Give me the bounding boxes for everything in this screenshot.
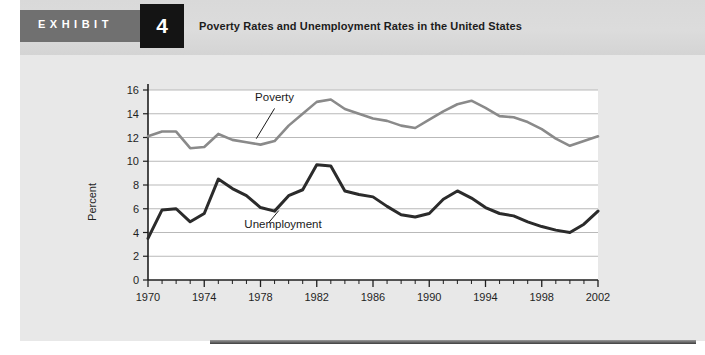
chart-figure: 0246810121416 19701974197819821986199019… [84,82,614,317]
series-label-poverty: Poverty [255,91,294,103]
x-tick-label: 1990 [417,291,441,303]
x-axis-ticks: 197019741978198219861990199419982002 [136,280,610,303]
y-tick-label: 2 [133,250,139,262]
y-tick-label: 6 [133,203,139,215]
y-tick-label: 12 [127,132,139,144]
line-chart: 0246810121416 19701974197819821986199019… [84,82,614,317]
x-tick-label: 1986 [361,291,385,303]
x-tick-label: 1974 [192,291,216,303]
y-axis-title: Percent [86,183,98,221]
x-tick-label: 1982 [305,291,329,303]
y-tick-label: 4 [133,227,139,239]
y-axis-ticks: 0246810121416 [127,84,148,286]
y-tick-label: 16 [127,84,139,96]
exhibit-number-label: 4 [140,4,184,48]
exhibit-word-label: EXHIBIT [38,18,113,30]
x-tick-label: 1994 [473,291,497,303]
x-tick-label: 2002 [586,291,610,303]
x-tick-label: 1998 [530,291,554,303]
bottom-rule [210,340,696,344]
series-label-unemployment: Unemployment [244,218,322,230]
exhibit-page: EXHIBIT 4 Poverty Rates and Unemployment… [0,0,705,355]
exhibit-tab: EXHIBIT [20,10,160,42]
y-tick-label: 14 [127,108,139,120]
y-tick-label: 10 [127,155,139,167]
x-tick-label: 1978 [248,291,272,303]
x-tick-label: 1970 [136,291,160,303]
y-tick-label: 0 [133,274,139,286]
exhibit-number-box: 4 [140,4,184,48]
page-title: Poverty Rates and Unemployment Rates in … [199,20,522,32]
y-tick-label: 8 [133,179,139,191]
